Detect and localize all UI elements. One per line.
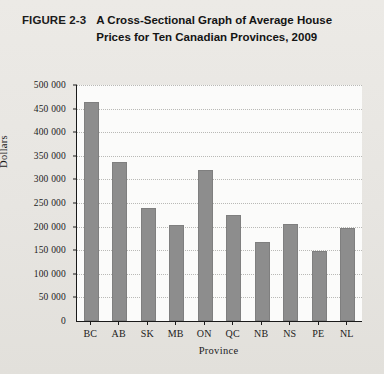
x-axis-title: Province [76, 345, 361, 356]
x-axis-tick-slot [333, 321, 362, 326]
x-axis-tick-label-nl: NL [333, 328, 362, 339]
x-axis-tick-label-bc: BC [76, 328, 105, 339]
bar-ab [112, 162, 127, 321]
x-axis-tick-mark [147, 321, 148, 325]
x-axis-tick-mark [118, 321, 119, 325]
x-axis-tick-slot [190, 321, 219, 326]
bar-slot [248, 85, 277, 321]
y-axis-tick-label: 350 000 [34, 151, 66, 161]
x-axis-tick-label-qc: QC [219, 328, 248, 339]
x-axis-tick-mark [261, 321, 262, 325]
y-axis: 050 000100 000150 000200 000250 000300 0… [0, 85, 72, 321]
x-axis-tick-labels: BCABSKMBONQCNBNSPENL [76, 328, 361, 339]
bar-slot [334, 85, 363, 321]
bar-slot [163, 85, 192, 321]
bar-slot [191, 85, 220, 321]
y-axis-tick-mark [73, 179, 77, 180]
x-axis-tick-label-pe: PE [304, 328, 333, 339]
x-axis-tick-slot [133, 321, 162, 326]
y-axis-tick-mark [73, 203, 77, 204]
bar-bc [84, 102, 99, 321]
bar-qc [226, 215, 241, 321]
bar-slot [305, 85, 334, 321]
x-axis-tick-mark [232, 321, 233, 325]
y-axis-tick-label: 0 [61, 316, 66, 326]
y-axis-tick-label: 50 000 [39, 292, 66, 302]
y-axis-tick-label: 450 000 [34, 104, 66, 114]
y-axis-tick-mark [73, 250, 77, 251]
x-axis-tick-slot [276, 321, 305, 326]
x-axis-tick-label-on: ON [190, 328, 219, 339]
bar-slot [106, 85, 135, 321]
x-axis-tick-mark [175, 321, 176, 325]
x-axis-tick-marks [76, 321, 361, 326]
bar-pe [312, 251, 327, 321]
bar-on [198, 170, 213, 322]
y-axis-tick-mark [73, 273, 77, 274]
bar-nl [340, 228, 355, 321]
x-axis-tick-slot [247, 321, 276, 326]
x-axis-tick-slot [105, 321, 134, 326]
y-axis-tick-label: 300 000 [34, 174, 66, 184]
y-axis-tick-mark [73, 85, 77, 86]
y-axis-tick-mark [73, 226, 77, 227]
y-axis-tick-mark [73, 132, 77, 133]
y-axis-tick-label: 200 000 [34, 222, 66, 232]
bar-mb [169, 225, 184, 321]
x-axis-tick-mark [318, 321, 319, 325]
x-axis-tick-label-mb: MB [162, 328, 191, 339]
y-axis-title: Dollars [0, 135, 9, 168]
x-axis-tick-label-ns: NS [276, 328, 305, 339]
figure-number-label: FIGURE 2-3 [22, 12, 86, 29]
x-axis-tick-mark [90, 321, 91, 325]
x-axis-tick-mark [204, 321, 205, 325]
y-axis-tick-label: 500 000 [34, 80, 66, 90]
x-axis-tick-mark [289, 321, 290, 325]
x-axis-tick-label-ab: AB [105, 328, 134, 339]
x-axis-tick-mark [346, 321, 347, 325]
x-axis-tick-label-sk: SK [133, 328, 162, 339]
x-axis-tick-label-nb: NB [247, 328, 276, 339]
y-axis-tick-mark [73, 297, 77, 298]
y-axis-tick-mark [73, 155, 77, 156]
x-axis-tick-slot [162, 321, 191, 326]
figure-title: A Cross-Sectional Graph of Average House… [96, 12, 346, 45]
plot-area [76, 85, 362, 322]
bar-slot [77, 85, 106, 321]
y-axis-tick-label: 250 000 [34, 198, 66, 208]
bar-slot [277, 85, 306, 321]
x-axis-tick-slot [304, 321, 333, 326]
bar-sk [141, 208, 156, 321]
y-axis-tick-label: 100 000 [34, 269, 66, 279]
bar-nb [255, 242, 270, 321]
bar-series [77, 85, 362, 321]
x-axis-tick-slot [219, 321, 248, 326]
bar-ns [283, 224, 298, 321]
y-axis-tick-label: 150 000 [34, 245, 66, 255]
figure-container: FIGURE 2-3 A Cross-Sectional Graph of Av… [0, 0, 384, 374]
y-axis-tick-label: 400 000 [34, 127, 66, 137]
bar-slot [134, 85, 163, 321]
bar-slot [220, 85, 249, 321]
x-axis-tick-slot [76, 321, 105, 326]
figure-caption: FIGURE 2-3 A Cross-Sectional Graph of Av… [22, 12, 370, 45]
y-axis-tick-mark [73, 108, 77, 109]
